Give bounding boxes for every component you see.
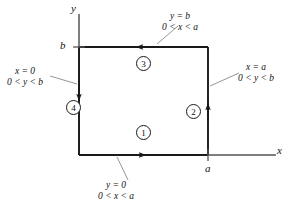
leader-segment-1	[117, 157, 128, 180]
figure-canvas	[0, 0, 296, 211]
segment-marker-2: 2	[186, 104, 201, 119]
y-tick-label-b: b	[60, 39, 66, 52]
annotation-segment-1: y = 0 0 < x < a	[98, 180, 134, 202]
annotation-segment-4: x = 0 0 < y < b	[7, 66, 43, 88]
annotation-segment-3: y = b 0 < x < a	[162, 11, 198, 33]
annotation-segment-2-range: 0 < y < b	[238, 73, 274, 84]
leader-segment-2	[210, 73, 239, 86]
x-tick-label-a: a	[205, 162, 211, 175]
annotation-segment-1-equation: y = 0	[98, 180, 134, 191]
annotation-segment-2-equation: x = a	[238, 62, 274, 73]
annotation-segment-4-range: 0 < y < b	[7, 77, 43, 88]
axis-lines	[79, 14, 276, 155]
y-axis-label: y	[71, 2, 76, 15]
x-axis-label: x	[277, 144, 282, 157]
leader-segment-4	[50, 76, 77, 84]
annotation-segment-2: x = a 0 < y < b	[238, 62, 274, 84]
annotation-segment-3-range: 0 < x < a	[162, 22, 198, 33]
annotation-segment-1-range: 0 < x < a	[98, 191, 134, 202]
boundary-value-figure: y x b a 1 2 3 4 y = b 0 < x < a x = a 0 …	[0, 0, 296, 211]
segment-marker-3: 3	[136, 56, 151, 71]
segment-marker-1: 1	[136, 125, 151, 140]
annotation-segment-3-equation: y = b	[162, 11, 198, 22]
segment-marker-4: 4	[66, 100, 81, 115]
annotation-segment-4-equation: x = 0	[7, 66, 43, 77]
